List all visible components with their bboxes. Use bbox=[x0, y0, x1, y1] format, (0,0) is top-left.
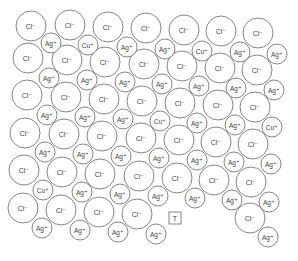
chloride-ion-label: Cl⁻ bbox=[136, 135, 147, 142]
chloride-ion-label: Cl⁻ bbox=[139, 61, 150, 68]
chloride-ion: Cl⁻ bbox=[9, 155, 39, 185]
chloride-ion: Cl⁻ bbox=[201, 127, 231, 157]
chloride-ion-label: Cl⁻ bbox=[103, 24, 114, 31]
silver-ion: Ag⁺ bbox=[267, 44, 287, 64]
copper-ion-label: Cu⁺ bbox=[266, 124, 278, 131]
silver-ion: Ag⁺ bbox=[264, 80, 284, 100]
chloride-ion: Cl⁻ bbox=[85, 159, 115, 189]
chloride-ion: Cl⁻ bbox=[49, 119, 79, 149]
chloride-ion: Cl⁻ bbox=[238, 129, 268, 159]
chloride-ion-label: Cl⁻ bbox=[23, 55, 34, 62]
chloride-ion: Cl⁻ bbox=[51, 82, 81, 112]
chloride-ion: Cl⁻ bbox=[16, 11, 46, 41]
silver-ion: Ag⁺ bbox=[224, 152, 244, 172]
chloride-ion: Cl⁻ bbox=[124, 161, 154, 191]
chloride-ion: Cl⁻ bbox=[122, 199, 152, 229]
chloride-ion: Cl⁻ bbox=[13, 43, 43, 73]
silver-ion-label: Ag⁺ bbox=[228, 159, 240, 167]
chloride-ion-label: Cl⁻ bbox=[174, 137, 185, 144]
silver-ion-label: Ag⁺ bbox=[153, 155, 165, 163]
silver-ion-label: Ag⁺ bbox=[226, 197, 238, 205]
chloride-ion: Cl⁻ bbox=[126, 123, 156, 153]
chloride-ion: Cl⁻ bbox=[236, 167, 266, 197]
chloride-ion-label: Cl⁻ bbox=[94, 209, 105, 216]
chloride-ion-label: Cl⁻ bbox=[100, 59, 111, 66]
chloride-ion: Cl⁻ bbox=[10, 118, 40, 148]
silver-ion-label: Ag⁺ bbox=[117, 116, 129, 124]
silver-ion-label: Ag⁺ bbox=[229, 122, 241, 130]
chloride-ion-label: Cl⁻ bbox=[246, 179, 257, 186]
chloride-ion-label: Cl⁻ bbox=[56, 207, 67, 214]
chloride-ion-label: Cl⁻ bbox=[22, 92, 33, 99]
silver-ion-label: Ag⁺ bbox=[115, 153, 127, 161]
silver-ion: Ag⁺ bbox=[115, 72, 135, 92]
silver-ion: Ag⁺ bbox=[230, 42, 250, 62]
chloride-ion-label: Cl⁻ bbox=[172, 175, 183, 182]
silver-ion: Ag⁺ bbox=[152, 74, 172, 94]
silver-ion: Ag⁺ bbox=[72, 182, 92, 202]
chloride-ion-label: Cl⁻ bbox=[141, 25, 152, 32]
silver-ion: Ag⁺ bbox=[155, 39, 175, 59]
chloride-ion: Cl⁻ bbox=[84, 197, 114, 227]
chloride-ion: Cl⁻ bbox=[131, 13, 161, 43]
silver-ion: Ag⁺ bbox=[75, 107, 95, 127]
chloride-ion: Cl⁻ bbox=[165, 88, 195, 118]
copper-ion-label: Cu⁺ bbox=[82, 42, 94, 49]
chloride-ion: Cl⁻ bbox=[8, 193, 38, 223]
silver-ion: Ag⁺ bbox=[77, 70, 97, 90]
silver-ion: Ag⁺ bbox=[226, 78, 246, 98]
silver-ion-label: Ag⁺ bbox=[263, 199, 275, 207]
silver-ion-label: Ag⁺ bbox=[262, 234, 274, 242]
lattice-canvas: Cl⁻Cl⁻Cl⁻Cl⁻Cl⁻Cl⁻Cl⁻Cl⁻Cl⁻Cl⁻Cl⁻Cl⁻Cl⁻C… bbox=[0, 0, 298, 261]
chloride-ion-label: Cl⁻ bbox=[179, 27, 190, 34]
silver-ion-label: Ag⁺ bbox=[268, 87, 280, 95]
copper-ion: Cu⁺ bbox=[262, 117, 282, 137]
silver-ion-label: Ag⁺ bbox=[271, 51, 283, 59]
chloride-ion-label: Cl⁻ bbox=[209, 177, 220, 184]
silver-ion-label: Ag⁺ bbox=[191, 120, 203, 128]
chloride-ion-label: Cl⁻ bbox=[175, 100, 186, 107]
chloride-ion-label: Cl⁻ bbox=[248, 141, 259, 148]
copper-ion: Cu⁺ bbox=[192, 41, 212, 61]
silver-ion-label: Ag⁺ bbox=[39, 149, 51, 157]
silver-ion: Ag⁺ bbox=[37, 105, 57, 125]
silver-ion-label: Ag⁺ bbox=[81, 77, 93, 85]
silver-ion: Ag⁺ bbox=[32, 218, 52, 238]
copper-ion: Cu⁺ bbox=[150, 111, 170, 131]
silver-ion: Ag⁺ bbox=[222, 190, 242, 210]
chloride-ion: Cl⁻ bbox=[47, 157, 77, 187]
chloride-ion-label: Cl⁻ bbox=[95, 171, 106, 178]
chloride-ion: Cl⁻ bbox=[12, 80, 42, 110]
silver-ion: Ag⁺ bbox=[111, 146, 131, 166]
silver-ion: Ag⁺ bbox=[187, 113, 207, 133]
silver-ion: Ag⁺ bbox=[73, 144, 93, 164]
silver-ion-label: Ag⁺ bbox=[191, 157, 203, 165]
chloride-ion: Cl⁻ bbox=[127, 86, 157, 116]
chloride-ion: Cl⁻ bbox=[93, 12, 123, 42]
silver-ion: Ag⁺ bbox=[35, 142, 55, 162]
chloride-ion-label: Cl⁻ bbox=[216, 28, 227, 35]
silver-ion-label: Ag⁺ bbox=[230, 85, 242, 93]
silver-ion: Ag⁺ bbox=[39, 68, 59, 88]
chloride-ion-label: Cl⁻ bbox=[61, 94, 72, 101]
copper-ion-label: Cu⁺ bbox=[37, 187, 49, 194]
silver-ion-label: Ag⁺ bbox=[150, 231, 162, 239]
silver-ion-label: Ag⁺ bbox=[43, 75, 55, 83]
copper-ion: Cu⁺ bbox=[78, 35, 98, 55]
chloride-ion-label: Cl⁻ bbox=[20, 130, 31, 137]
chloride-ion-label: Cl⁻ bbox=[253, 30, 264, 37]
silver-ion: Ag⁺ bbox=[149, 148, 169, 168]
chloride-ion-label: Cl⁻ bbox=[250, 104, 261, 111]
chloride-ion-label: Cl⁻ bbox=[26, 23, 37, 30]
silver-ion-label: Ag⁺ bbox=[119, 79, 131, 87]
silver-ion-label: Ag⁺ bbox=[74, 227, 86, 235]
chloride-ion-label: Cl⁻ bbox=[215, 65, 226, 72]
trap-site: T bbox=[169, 212, 181, 224]
crystal-lattice-diagram: Cl⁻Cl⁻Cl⁻Cl⁻Cl⁻Cl⁻Cl⁻Cl⁻Cl⁻Cl⁻Cl⁻Cl⁻Cl⁻C… bbox=[0, 0, 298, 261]
silver-ion-label: Ag⁺ bbox=[156, 81, 168, 89]
copper-ion: Cu⁺ bbox=[33, 180, 53, 200]
chloride-ion: Cl⁻ bbox=[89, 84, 119, 114]
silver-ion-label: Ag⁺ bbox=[152, 193, 164, 201]
chloride-ion-label: Cl⁻ bbox=[137, 98, 148, 105]
chloride-ion: Cl⁻ bbox=[243, 18, 273, 48]
